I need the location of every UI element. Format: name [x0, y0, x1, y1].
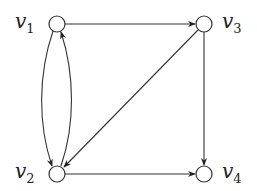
edge-v1-v2	[42, 31, 53, 166]
label-v2: v2	[15, 159, 35, 186]
node-v4	[196, 166, 212, 182]
label-v1: v1	[15, 9, 35, 36]
edge-v3-v2	[64, 30, 198, 167]
edge-v2-v1	[61, 32, 72, 166]
graph-diagram: v1 v2 v3 v4	[0, 0, 257, 191]
label-v4: v4	[222, 159, 242, 186]
node-v2	[49, 166, 65, 182]
label-v3: v3	[222, 9, 242, 36]
node-v1	[49, 16, 65, 32]
node-v3	[196, 16, 212, 32]
